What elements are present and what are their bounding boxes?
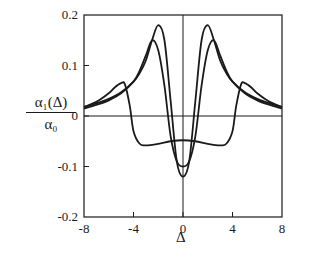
y-axis-label-denominator: α₀ [26,113,76,132]
x-tick-label: 8 [279,221,286,236]
x-tick-label: 4 [229,221,236,236]
y-tick-label: 0.2 [62,7,78,22]
y-tick-label: -0.2 [57,209,78,224]
reference-lines [84,15,282,217]
y-tick-label: 0.1 [62,58,78,73]
x-tick-label: -4 [128,221,139,236]
axis-ticks: -8-4048-0.2-0.100.10.2 [57,7,285,236]
y-axis-label: α₁(Δ) α₀ [26,94,76,132]
y-tick-label: -0.1 [57,159,78,174]
x-tick-label: -8 [79,221,90,236]
x-axis-label: Δ [176,229,186,246]
y-axis-label-numerator: α₁(Δ) [26,94,76,113]
